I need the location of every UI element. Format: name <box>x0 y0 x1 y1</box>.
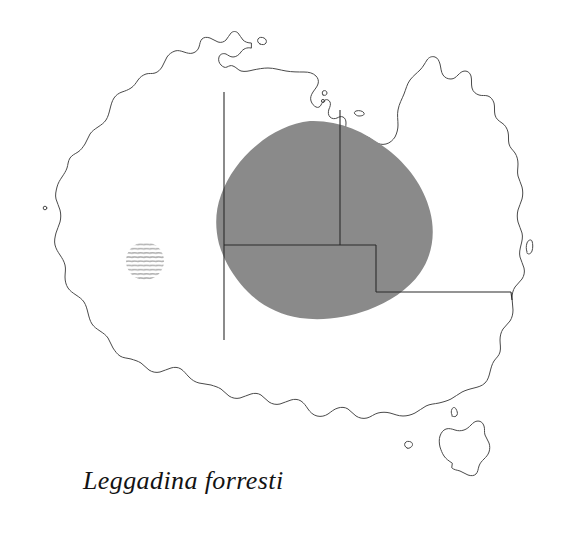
fraser-island <box>526 240 533 254</box>
distribution-range-shading <box>216 121 433 319</box>
groote-eylandt <box>322 91 327 96</box>
species-name-caption: Leggadina forresti <box>83 466 284 496</box>
bass-strait-islet <box>451 408 457 417</box>
nsw-vic-border <box>511 292 512 300</box>
hatched-record-patch <box>125 241 167 283</box>
mornington-islet <box>354 111 364 116</box>
melville-island <box>258 37 267 44</box>
west-coast-islet <box>43 206 47 210</box>
tasmania-island <box>439 421 490 476</box>
kangaroo-island <box>405 441 413 448</box>
australia-map-svg <box>0 0 565 538</box>
species-distribution-figure: Leggadina forresti <box>0 0 565 538</box>
